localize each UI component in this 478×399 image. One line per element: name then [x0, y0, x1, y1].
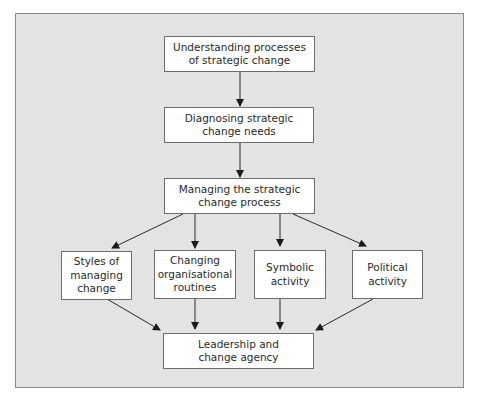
node-styles-of-managing: Styles of managing change: [61, 251, 132, 300]
node-changing-routines: Changing organisational routines: [154, 250, 236, 299]
node-diagnosing-needs: Diagnosing strategic change needs: [164, 107, 314, 143]
node-understanding-processes: Understanding processes of strategic cha…: [164, 36, 315, 72]
node-managing-process: Managing the strategic change process: [164, 178, 315, 214]
node-leadership-agency: Leadership and change agency: [163, 333, 314, 369]
node-symbolic-activity: Symbolic activity: [254, 250, 326, 299]
node-political-activity: Political activity: [352, 250, 423, 299]
